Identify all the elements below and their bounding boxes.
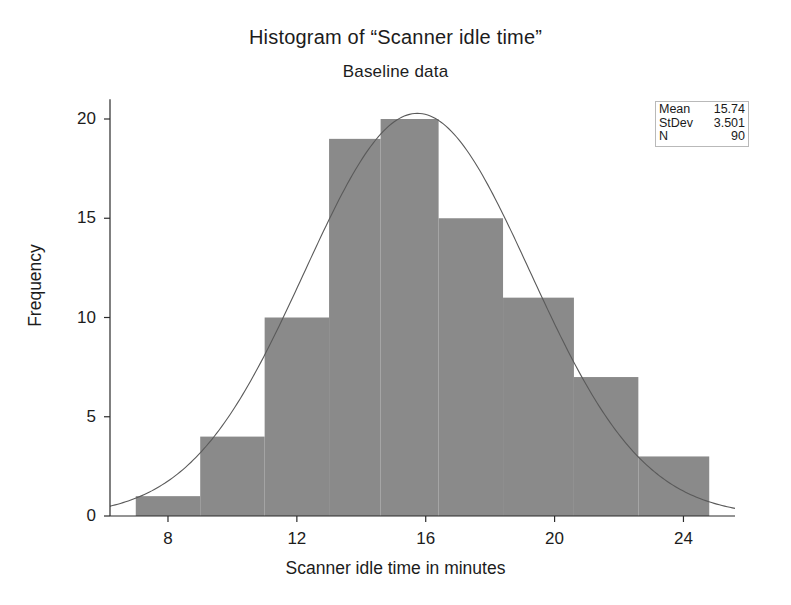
histogram-bar <box>265 318 329 517</box>
y-tick-label: 15 <box>54 208 96 228</box>
statistics-legend-box: Mean 15.74 StDev 3.501 N 90 <box>655 101 749 147</box>
y-tick-label: 20 <box>54 109 96 129</box>
x-axis-title: Scanner idle time in minutes <box>0 558 791 579</box>
histogram-bar <box>439 218 503 516</box>
stats-row-mean: Mean 15.74 <box>659 103 745 117</box>
stats-value-mean: 15.74 <box>714 103 745 117</box>
x-tick-label: 16 <box>396 529 456 549</box>
histogram-bar <box>200 437 264 516</box>
plot-area <box>0 0 791 605</box>
y-axis-tick-marks <box>104 119 110 516</box>
x-tick-label: 24 <box>653 529 713 549</box>
histogram-bar <box>136 496 200 516</box>
stats-label-mean: Mean <box>659 103 694 117</box>
y-tick-label: 10 <box>54 308 96 328</box>
histogram-bar <box>381 119 439 516</box>
stats-row-stdev: StDev 3.501 <box>659 117 745 131</box>
stats-value-n: 90 <box>731 130 745 144</box>
histogram-bar <box>329 139 381 516</box>
y-tick-label: 0 <box>54 506 96 526</box>
stats-label-n: N <box>659 130 672 144</box>
x-tick-label: 20 <box>525 529 585 549</box>
x-tick-label: 8 <box>138 529 198 549</box>
y-axis-title: Frequency <box>25 216 46 356</box>
x-tick-label: 12 <box>267 529 327 549</box>
histogram-figure: Histogram of “Scanner idle time” Baselin… <box>0 0 791 605</box>
stats-label-stdev: StDev <box>659 117 697 131</box>
y-tick-label: 5 <box>54 407 96 427</box>
x-axis-tick-marks <box>168 516 683 522</box>
histogram-bars <box>136 119 709 516</box>
histogram-bar <box>503 298 574 516</box>
stats-row-n: N 90 <box>659 130 745 144</box>
stats-value-stdev: 3.501 <box>714 117 745 131</box>
